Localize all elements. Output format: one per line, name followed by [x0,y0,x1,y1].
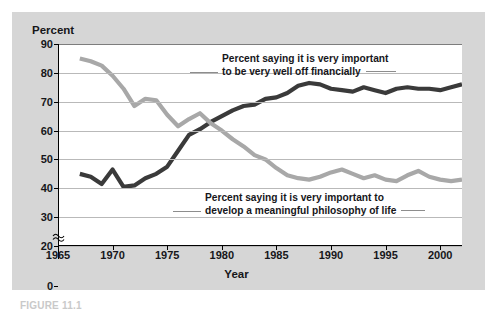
annotation-philosophy: Percent saying it is very important tode… [205,192,425,217]
x-tick-label: 2000 [428,249,452,261]
y-tick [54,286,58,287]
leader-rule [401,210,425,211]
gridline [58,131,462,132]
x-tick [167,245,168,250]
axis-break-icon [52,230,65,244]
annotation-text: develop a meaningful philosophy of life [205,205,396,218]
annotation-line: Percent saying it is very important to [205,192,425,205]
y-tick-label: 80 [27,68,53,78]
y-tick [54,246,58,247]
y-tick-label: 30 [27,212,53,222]
y-tick [54,44,58,45]
leader-rule-left [173,211,201,212]
x-tick [113,245,114,250]
y-tick-label: 70 [27,97,53,107]
annotation-line: Percent saying it is very important [222,53,396,66]
leader-rule [366,71,396,72]
x-tick-label: 1995 [373,249,397,261]
figure-caption: FIGURE 11.1 [20,300,82,311]
x-tick [440,245,441,250]
y-tick-label: 90 [27,39,53,49]
annotation-line: to be very well off financially [222,66,396,79]
x-tick-label: 1990 [319,249,343,261]
x-tick-label: 1965 [46,249,70,261]
y-tick [54,188,58,189]
x-tick [222,245,223,250]
x-axis-title: Year [0,268,473,280]
x-tick-label: 1980 [210,249,234,261]
gridline [58,44,462,45]
y-tick-label: 60 [27,126,53,136]
leader-rule-left [190,72,218,73]
y-axis-title: Percent [32,24,74,36]
gridline [58,102,462,103]
x-tick [331,245,332,250]
x-axis-line [58,245,462,246]
series-line-financially [80,83,462,187]
x-tick-label: 1970 [100,249,124,261]
y-tick [54,131,58,132]
gridline [58,246,462,247]
x-tick [386,245,387,250]
x-tick [276,245,277,250]
y-tick-label: 40 [27,183,53,193]
gridline [58,159,462,160]
y-tick [54,102,58,103]
annotation-text: to be very well off financially [222,66,361,79]
y-tick [54,73,58,74]
gridline [58,188,462,189]
y-tick-label: 50 [27,154,53,164]
y-tick [54,159,58,160]
gridline [58,217,462,218]
annotation-line: develop a meaningful philosophy of life [205,205,425,218]
x-tick-label: 1985 [264,249,288,261]
y-tick-label: 0 [27,281,53,291]
annotation-financially: Percent saying it is very importantto be… [222,53,396,78]
figure-root: Percent 02030405060708090 19651970197519… [0,0,497,319]
y-axis-line [58,44,59,259]
y-tick [54,217,58,218]
x-tick-label: 1975 [155,249,179,261]
